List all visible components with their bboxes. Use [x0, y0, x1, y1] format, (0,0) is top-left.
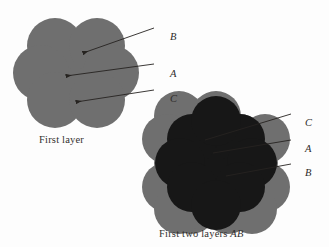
first-layer-label-c: C — [170, 93, 177, 104]
second-diagram-label-a: A — [305, 143, 311, 154]
first-layer-circle-group — [13, 18, 139, 128]
first-layer-label-b: B — [170, 31, 176, 42]
second-diagram-label-b: B — [305, 167, 311, 178]
second-diagram-label-c: C — [305, 117, 312, 128]
first-layer-label-a: A — [170, 68, 176, 79]
sphere-b-bottom-mid — [191, 180, 241, 230]
caption-first-two-layers-italic: AB — [230, 228, 243, 239]
figure-canvas — [0, 0, 329, 247]
close-packing-figure: BAC CAB First layer First two layers AB — [0, 0, 329, 247]
sphere-b-top-mid — [191, 96, 241, 146]
sphere-a-bottom-right — [69, 72, 125, 128]
caption-first-two-layers-prefix: First two layers — [159, 228, 230, 239]
caption-first-layer: First layer — [39, 134, 84, 145]
caption-first-two-layers: First two layers AB — [159, 228, 244, 239]
